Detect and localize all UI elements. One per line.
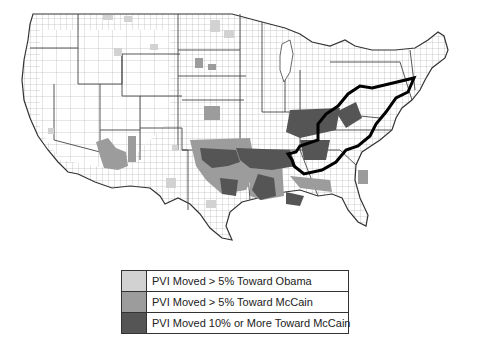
legend-label: PVI Moved > 5% Toward McCain	[147, 292, 348, 312]
legend-label: PVI Moved 10% or More Toward McCain	[147, 313, 348, 333]
legend-item-toward-obama: PVI Moved > 5% Toward Obama	[122, 271, 348, 291]
legend-item-toward-mccain-10: PVI Moved 10% or More Toward McCain	[122, 312, 348, 333]
legend-swatch-light-gray	[122, 271, 147, 291]
legend-swatch-medium-gray	[122, 292, 147, 312]
map-legend: PVI Moved > 5% Toward Obama PVI Moved > …	[121, 270, 349, 334]
us-county-map	[0, 0, 486, 262]
legend-swatch-dark-gray	[122, 313, 147, 333]
legend-label: PVI Moved > 5% Toward Obama	[147, 271, 348, 291]
legend-item-toward-mccain-5: PVI Moved > 5% Toward McCain	[122, 291, 348, 312]
